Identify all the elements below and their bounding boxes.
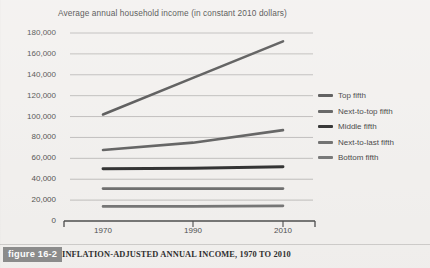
y-tick-label: 80,000 — [8, 132, 56, 141]
legend-label: Bottom fifth — [338, 153, 378, 162]
legend-swatch-icon — [318, 156, 333, 159]
y-tick-label: 120,000 — [8, 91, 56, 100]
series-line-next-to-top-fifth — [103, 130, 283, 150]
caption-divider — [0, 244, 430, 245]
legend-item: Middle fifth — [318, 119, 430, 135]
figure-caption-text: INFLATION-ADJUSTED ANNUAL INCOME, 1970 T… — [62, 250, 291, 259]
chart-legend: Top fifthNext-to-top fifthMiddle fifthNe… — [318, 88, 430, 166]
legend-label: Middle fifth — [338, 122, 377, 131]
legend-item: Next-to-top fifth — [318, 104, 430, 120]
x-tick-label: 2010 — [263, 226, 303, 235]
figure-number-badge: figure 16-2 — [3, 247, 62, 262]
legend-label: Next-to-top fifth — [338, 107, 393, 116]
y-tick-label: 20,000 — [8, 195, 56, 204]
y-tick-label: 140,000 — [8, 70, 56, 79]
x-tick-label: 1970 — [83, 226, 123, 235]
y-tick-label: 0 — [8, 216, 56, 225]
series-line-top-fifth — [103, 41, 283, 114]
legend-swatch-icon — [318, 125, 333, 128]
legend-item: Bottom fifth — [318, 150, 430, 166]
legend-swatch-icon — [318, 94, 333, 97]
y-tick-label: 160,000 — [8, 49, 56, 58]
figure-caption-bar: figure 16-2 INFLATION-ADJUSTED ANNUAL IN… — [0, 246, 430, 268]
y-tick-label: 100,000 — [8, 112, 56, 121]
y-tick-label: 60,000 — [8, 153, 56, 162]
x-tick-label: 1990 — [173, 226, 213, 235]
series-line-middle-fifth — [103, 167, 283, 169]
legend-label: Next-to-last fifth — [338, 138, 394, 147]
series-line-bottom-fifth — [103, 206, 283, 207]
y-tick-label: 180,000 — [8, 28, 56, 37]
legend-item: Next-to-last fifth — [318, 135, 430, 151]
figure-page: Average annual household income (in cons… — [0, 0, 430, 268]
legend-label: Top fifth — [338, 91, 366, 100]
legend-item: Top fifth — [318, 88, 430, 104]
y-tick-label: 40,000 — [8, 174, 56, 183]
legend-swatch-icon — [318, 110, 333, 113]
legend-swatch-icon — [318, 141, 333, 144]
